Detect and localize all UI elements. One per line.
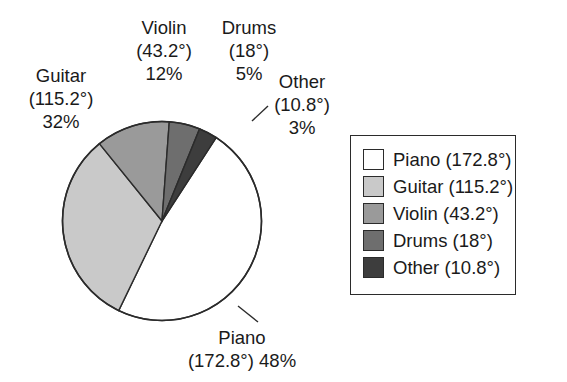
legend-label: Drums (18°) (393, 230, 493, 252)
legend-label: Guitar (115.2°) (393, 176, 513, 198)
callout-drums-name: Drums (208, 16, 290, 39)
legend-item[interactable]: Guitar (115.2°) (363, 173, 515, 200)
callout-violin-name: Violin (118, 16, 210, 39)
callout-other-percent: 3% (252, 116, 352, 139)
callout-other-angle: (10.8°) (252, 93, 352, 116)
callout-guitar-name: Guitar (2, 64, 120, 87)
callout-drums-angle: (18°) (208, 39, 290, 62)
legend-swatch-4 (363, 257, 384, 278)
callout-violin-angle: (43.2°) (118, 39, 210, 62)
slice-callout-guitar: Guitar (115.2°) 32% (2, 64, 120, 133)
legend-swatch-1 (363, 176, 384, 197)
leader-line-piano (238, 306, 258, 322)
legend-item[interactable]: Piano (172.8°) (363, 146, 515, 173)
slice-callout-violin: Violin (43.2°) 12% (118, 16, 210, 85)
legend-label: Violin (43.2°) (393, 203, 499, 225)
callout-violin-percent: 12% (118, 62, 210, 85)
callout-piano-name: Piano (152, 326, 332, 349)
legend-swatch-3 (363, 230, 384, 251)
legend-item[interactable]: Drums (18°) (363, 227, 515, 254)
pie-slices (62, 122, 261, 321)
callout-guitar-angle: (115.2°) (2, 87, 120, 110)
legend-label: Piano (172.8°) (393, 149, 511, 171)
legend-label: Other (10.8°) (393, 257, 500, 279)
callout-guitar-percent: 32% (2, 110, 120, 133)
legend-swatch-2 (363, 203, 384, 224)
callout-other-name: Other (252, 70, 352, 93)
legend-swatch-0 (363, 149, 384, 170)
slice-callout-other: Other (10.8°) 3% (252, 70, 352, 139)
slice-callout-piano: Piano (172.8°) 48% (152, 326, 332, 372)
pie-chart-figure: Guitar (115.2°) 32% Violin (43.2°) 12% D… (0, 0, 567, 382)
callout-piano-angle-percent: (172.8°) 48% (152, 349, 332, 372)
chart-legend: Piano (172.8°)Guitar (115.2°)Violin (43.… (350, 135, 516, 295)
legend-item[interactable]: Violin (43.2°) (363, 200, 515, 227)
legend-item[interactable]: Other (10.8°) (363, 254, 515, 281)
